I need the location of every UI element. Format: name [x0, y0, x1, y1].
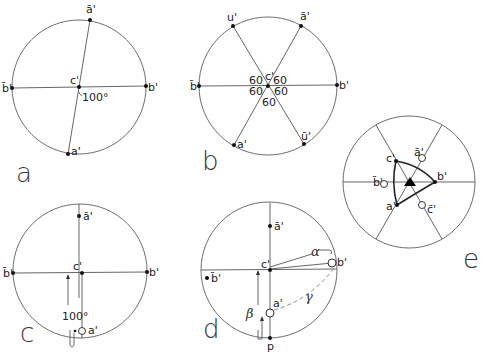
panel-b-label-u-bar: ū': [301, 130, 311, 143]
panel-d-alpha-arrow: [318, 250, 332, 254]
panel-b-label-a-bar: ā': [300, 10, 310, 23]
panel-d-point-b-bar: [205, 276, 209, 280]
panel-a-label-b: b': [148, 81, 158, 94]
panel-a: ā' b̄' c' b' a' 100° a: [1, 3, 158, 188]
panel-d-label-a: a': [273, 297, 283, 310]
panel-c: ā' b̄' c' b' a' 100° c: [2, 204, 159, 348]
panel-b-point-a: [232, 143, 236, 147]
panel-e-label-a-bar: ā': [414, 146, 424, 159]
panel-b-label-a: a': [237, 138, 247, 151]
panel-d: ā' b̄' c' b' a' p α β γ d: [201, 202, 347, 352]
panel-e-label-c: c': [386, 152, 395, 165]
panel-d-beta-label: β: [245, 306, 254, 321]
panel-c-label-a-bar: ā': [83, 210, 93, 223]
panel-d-beta-hook: [258, 318, 262, 339]
panel-b-angle-label: 60: [249, 85, 263, 98]
panel-b-angle-label: 60: [274, 85, 288, 98]
panel-d-point-b-open: [328, 259, 336, 267]
panel-a-label-c: c': [70, 74, 79, 87]
panel-d-point-a-bar: [268, 224, 272, 228]
panel-c-angle-label: 100°: [62, 310, 89, 323]
panel-d-label-b: b': [337, 256, 347, 269]
panel-c-label-a: a': [88, 324, 98, 337]
panel-a-angle-label: 100°: [82, 91, 109, 104]
panel-d-label-p: p: [267, 340, 274, 352]
panel-d-arrow-head: [256, 270, 260, 275]
panel-e-point-c-bar-open: [419, 202, 426, 209]
panel-b-point-a-bar: [299, 24, 303, 28]
panel-d-label-a-bar: ā': [274, 220, 284, 233]
stereographic-projection-figure: ā' b̄' c' b' a' 100° a u' ā' b̄' c' b' a…: [0, 0, 483, 352]
panel-b-letter: b: [202, 146, 219, 176]
panel-e-label-c-bar: c̄': [427, 203, 436, 216]
panel-a-point-a: [66, 152, 70, 156]
panel-a-label-b-bar: b̄': [1, 82, 12, 95]
panel-b-point-c: [266, 84, 270, 88]
panel-d-label-b-bar: b̄': [210, 272, 221, 285]
panel-a-letter: a: [16, 158, 32, 188]
panel-b-point-u: [231, 24, 235, 28]
panel-e-label-b-bar: b̄': [372, 176, 383, 189]
panel-d-letter: d: [203, 314, 220, 344]
panel-a-point-a-bar: [88, 18, 92, 22]
panel-d-gamma-label: γ: [305, 289, 313, 304]
panel-b-label-b-bar: b̄': [189, 80, 200, 93]
panel-e: c' ā' b̄' b' a' c̄' e: [343, 116, 479, 274]
panel-e-label-b: b': [437, 170, 447, 183]
panel-d-gamma-dashed-arc: [274, 268, 334, 310]
panel-c-rotation-hook: [70, 330, 74, 347]
panel-c-point-a-open: [79, 328, 86, 335]
panel-b-label-u: u': [227, 11, 237, 24]
panel-c-letter: c: [20, 318, 34, 348]
panel-a-label-a: a': [71, 145, 81, 158]
panel-b: u' ā' b̄' c' b' a' ū' 60 60 60 60 60 b: [189, 10, 349, 176]
panel-d-beta-arrow-head: [260, 316, 264, 321]
panel-c-label-b-bar: b̄': [2, 267, 13, 280]
panel-d-label-c: c': [261, 258, 270, 271]
panel-d-point-a-open: [266, 309, 274, 317]
panel-b-angle-label: 60: [262, 96, 276, 109]
panel-c-label-c: c': [73, 260, 82, 273]
panel-a-label-a-bar: ā': [86, 3, 96, 16]
panel-e-label-a: a': [386, 200, 396, 213]
panel-b-label-b: b': [339, 79, 349, 92]
panel-c-point-a-bar: [77, 214, 81, 218]
panel-e-letter: e: [463, 244, 479, 274]
panel-c-label-b: b': [149, 266, 159, 279]
panel-c-arrow-head: [66, 274, 70, 279]
panel-c-hook-dot: [74, 330, 77, 333]
panel-d-alpha-label: α: [311, 244, 320, 259]
